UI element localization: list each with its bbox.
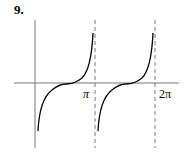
tick-label-pi: π: [83, 87, 89, 102]
curve-branch-2: [98, 33, 153, 131]
tick-label-2pi: 2π: [159, 87, 171, 102]
curve-branch-1: [38, 33, 93, 131]
function-graph: [0, 0, 187, 158]
